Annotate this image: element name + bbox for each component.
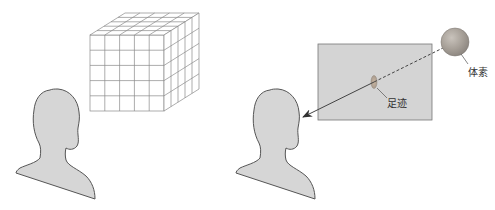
right-panel: 体素 足迹 [236,28,488,199]
viewer-head-right [236,89,315,199]
voxel-sphere [441,28,469,56]
left-panel [16,13,199,199]
voxel-label: 体素 [468,66,488,78]
diagram-canvas: 体素 足迹 [0,0,495,210]
voxel-leader-line [461,54,468,64]
footprint-label: 足迹 [387,97,407,109]
voxel-grid-cube [90,13,199,111]
viewer-head-left [16,89,95,199]
